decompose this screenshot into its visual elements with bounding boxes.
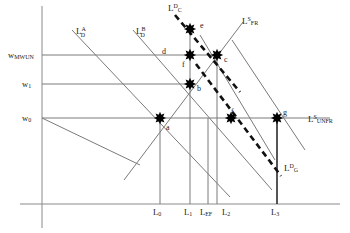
point-marker-g xyxy=(271,112,283,124)
curve-label-ld_a: LAD xyxy=(76,24,85,38)
x-axis-label-l_0: L0 xyxy=(153,208,161,217)
curve-label-ld_b: LBD xyxy=(136,24,145,38)
point-marker-a xyxy=(154,112,166,124)
point-label-e: e xyxy=(200,22,204,30)
curve_lg_d xyxy=(196,64,281,176)
curve_ls_fr xyxy=(124,22,243,180)
point-label-c: c xyxy=(224,56,228,64)
curve-label-ls_fr: LSFR xyxy=(242,16,258,26)
curve-label-lc_d: LDC xyxy=(168,3,182,13)
point-marker-b xyxy=(184,78,196,90)
y-axis-label-w_mwun: wMWUN xyxy=(8,51,34,60)
curve_right_fan_2 xyxy=(232,40,305,150)
y-axis-label-w_0: w0 xyxy=(22,114,31,123)
x-axis-label-l_1: L1 xyxy=(184,208,192,217)
x-axis-label-l_3: L3 xyxy=(271,208,279,217)
curve_lower_left xyxy=(42,118,140,165)
point-label-f1: f xyxy=(182,61,185,69)
point-label-d: d xyxy=(162,48,166,56)
curve_ld_b xyxy=(133,30,272,190)
y-axis-label-w_1: w1 xyxy=(22,80,31,89)
x-axis-label-l_ef: LEF xyxy=(200,208,212,217)
curve_right_fan_1 xyxy=(200,35,275,160)
point-label-b: b xyxy=(197,85,201,93)
point-label-a: a xyxy=(166,124,170,132)
x-axis-label-l_2: L2 xyxy=(222,208,230,217)
diagram-svg xyxy=(0,0,350,233)
point-label-f2: f xyxy=(231,108,234,116)
point-marker-e xyxy=(184,23,196,35)
point-marker-f1 xyxy=(184,49,196,61)
diagram-canvas: wMWUNw1w0L0L1LEFL2L3LADLBDLDCLSFRLSUNFRL… xyxy=(0,0,350,233)
point-label-g: g xyxy=(283,109,287,117)
curve-label-lg_d: LDG xyxy=(284,163,298,173)
point-marker-c xyxy=(211,49,223,61)
curve-label-ls_unfr: LSUNFR xyxy=(308,114,333,124)
